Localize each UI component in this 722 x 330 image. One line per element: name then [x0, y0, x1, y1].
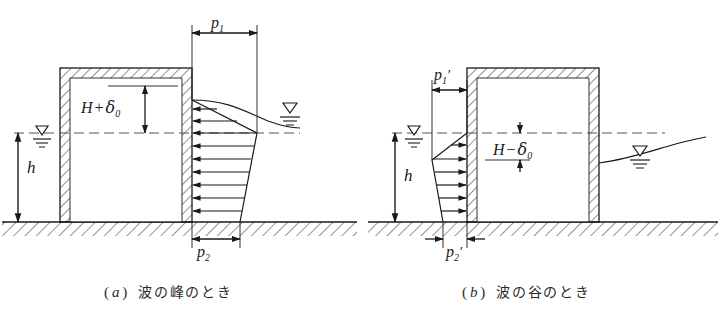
pressure-envelope-b — [432, 133, 467, 222]
caption-panel-b: (b)波の谷のとき — [462, 281, 590, 301]
caption-panel-a: (a)波の峰のとき — [104, 281, 232, 301]
water-level-symbol-right-b — [630, 146, 650, 168]
pressure-envelope-a — [192, 100, 257, 222]
ground-b — [368, 222, 718, 236]
panel-a-graphics — [2, 25, 357, 248]
label-H-plus-delta-panel-a: H+δ0 — [81, 98, 120, 119]
wave-surface-b — [599, 137, 706, 163]
label-h-panel-b: h — [404, 166, 413, 186]
dimension-p1-b — [432, 80, 467, 160]
label-p2-panel-a: p2 — [197, 243, 210, 263]
structure-b — [467, 68, 599, 222]
label-h-panel-a: h — [27, 158, 36, 178]
water-level-symbol-left-b — [405, 126, 423, 147]
pressure-arrows-a — [193, 109, 256, 211]
label-p2-prime-panel-b: p2′ — [446, 243, 462, 263]
label-H-minus-delta-panel-b: H−δ0 — [493, 140, 532, 161]
label-p1-prime-panel-b: p1′ — [434, 66, 450, 86]
water-level-symbol-left-a — [33, 126, 51, 147]
panel-b-graphics — [368, 68, 718, 248]
structure-a — [60, 68, 192, 222]
label-p1-panel-a: p1 — [211, 14, 224, 34]
water-level-symbol-right-a — [280, 103, 300, 125]
ground-a — [2, 222, 357, 236]
wave-pressure-figure: p1 p2 h H+δ0 p1′ p2′ h H−δ0 (a)波の峰のとき (b… — [0, 0, 722, 330]
